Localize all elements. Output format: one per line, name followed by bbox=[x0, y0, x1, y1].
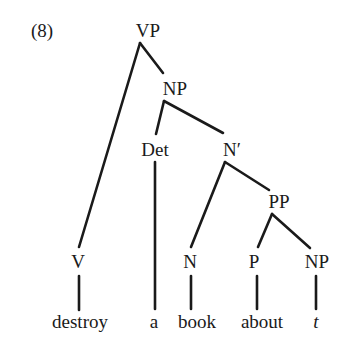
node-det: Det bbox=[141, 139, 169, 160]
edge-vp-v bbox=[79, 43, 140, 247]
node-vp: VP bbox=[136, 20, 160, 41]
node-p: P bbox=[249, 251, 260, 272]
word-destroy: destroy bbox=[52, 311, 108, 332]
tree-edges bbox=[79, 43, 316, 310]
node-nbar: N′ bbox=[223, 139, 241, 160]
node-np2: NP bbox=[305, 251, 329, 272]
edge-vp-np1 bbox=[140, 43, 163, 73]
terminal-words: destroyabookaboutt bbox=[52, 311, 319, 332]
edge-np1-nbar bbox=[164, 101, 223, 133]
edge-np1-det bbox=[156, 101, 164, 134]
word-a: a bbox=[150, 311, 159, 332]
edge-nbar-n bbox=[191, 162, 225, 247]
word-book: book bbox=[178, 311, 217, 332]
node-v: V bbox=[71, 251, 85, 272]
edge-pp-p bbox=[258, 214, 272, 247]
example-number: (8) bbox=[31, 20, 53, 42]
node-np1: NP bbox=[163, 78, 187, 99]
word-t: t bbox=[313, 311, 319, 332]
node-pp: PP bbox=[268, 191, 289, 212]
edge-pp-np2 bbox=[272, 214, 310, 248]
word-about: about bbox=[241, 311, 284, 332]
node-n: N bbox=[183, 251, 197, 272]
syntax-tree: (8) VPNPDetN′PPVNPNP destroyabookaboutt bbox=[0, 0, 356, 346]
edge-nbar-pp bbox=[225, 162, 269, 190]
